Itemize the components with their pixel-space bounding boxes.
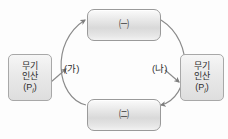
- side-right-line1: 무기: [194, 61, 210, 72]
- node-bottom-label: ㈡: [119, 110, 129, 120]
- side-right-formula-open: (P: [195, 82, 204, 92]
- node-top-box: ㈠: [87, 9, 161, 41]
- side-left-formula-close: ): [34, 82, 37, 92]
- side-right-line2: 인산: [194, 71, 210, 82]
- side-left-line1: 무기: [22, 61, 38, 72]
- node-bottom-box: ㈡: [87, 99, 161, 131]
- arc-caption-left: (가): [64, 61, 79, 75]
- side-left-formula-open: (P: [23, 82, 32, 92]
- node-top-label: ㈠: [119, 20, 129, 30]
- side-label-left: 무기 인산 (Pi): [8, 54, 52, 101]
- diagram-figure: ㈠ ㈡ 무기 인산 (Pi) 무기 인산 (Pi) (가) (나): [0, 0, 228, 139]
- side-left-formula: (Pi): [23, 82, 36, 94]
- side-left-line2: 인산: [22, 71, 38, 82]
- side-right-formula-close: ): [206, 82, 209, 92]
- side-label-right: 무기 인산 (Pi): [180, 54, 224, 101]
- arc-caption-right: (나): [152, 61, 167, 75]
- side-right-formula: (Pi): [195, 82, 208, 94]
